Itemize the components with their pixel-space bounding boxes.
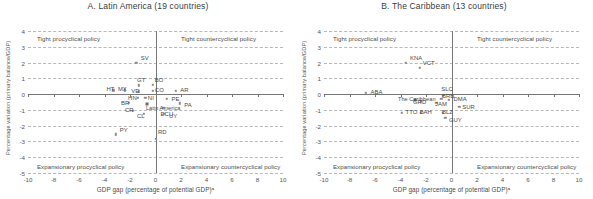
panel-a-data-point (152, 89, 154, 91)
panel-b-quadrant-label-tight-procyclical: Tight procyclical policy (333, 35, 396, 42)
panel-a-zero-axis-vertical (156, 31, 157, 173)
panel-b-y-tick-label: 2 (318, 59, 321, 66)
panel-a-gridline-y (28, 173, 283, 174)
panel-b-title: B. The Caribbean (13 countries) (296, 1, 592, 11)
panel-b-plot-area: 43210-1-2-3-4-5-10-8-6-4-20246810Tight p… (324, 31, 579, 173)
panel-a-x-tick-mark (105, 94, 106, 97)
panel-a-y-tick-label: -1 (19, 106, 25, 113)
panel-a-x-tick-mark (181, 94, 182, 97)
panel-b-x-tick-label: 8 (552, 176, 555, 183)
panel-b-x-tick-label: -2 (423, 176, 429, 183)
panel-b-y-tick-label: 0 (318, 91, 321, 98)
panel-latin-america: A. Latin America (19 countries) Percenta… (0, 0, 296, 199)
panel-b-data-point (404, 61, 406, 63)
panel-b-data-point-label: JAM (435, 101, 447, 107)
panel-a-x-tick-label: -10 (24, 176, 33, 183)
panel-a-data-point-label: GT (137, 77, 145, 83)
panel-a-x-tick-label: -6 (76, 176, 82, 183)
panel-a-x-tick-label: -2 (127, 176, 133, 183)
panel-a-y-tick-label: 4 (22, 28, 25, 35)
panel-b-data-point-label: DMA (453, 96, 466, 102)
panel-a-y-tick-label: -2 (19, 122, 25, 129)
panel-b-x-tick-label: 4 (501, 176, 504, 183)
panel-b-data-point-label: BLZ (442, 109, 453, 115)
panel-b-y-tick-label: 1 (318, 75, 321, 82)
panel-a-data-point (144, 97, 146, 99)
panel-b-x-tick-mark (579, 94, 580, 97)
panel-a-quadrant-label-expansionary-countercyclical: Expansionary countercyclical policy (181, 162, 280, 169)
panel-a-data-point (138, 84, 140, 86)
panel-a-data-point-label: CL (137, 113, 145, 119)
panel-b-data-point-label: VCT (423, 60, 435, 66)
panel-a-y-tick-label: 0 (22, 91, 25, 98)
panel-a-x-tick-label: 8 (256, 176, 259, 183)
panel-b-data-point (365, 91, 367, 93)
panel-a-x-tick-label: 10 (280, 176, 287, 183)
panel-a-data-point (166, 97, 168, 99)
panel-b-x-tick-mark (324, 94, 325, 97)
panel-a-y-axis-label: Percentage variation (primary balance/GD… (2, 28, 13, 168)
panel-b-data-point (458, 106, 460, 108)
panel-a-data-point-label: HT (106, 86, 114, 92)
panel-a-data-point (115, 133, 117, 135)
panel-a-y-tick-label: 2 (22, 59, 25, 66)
panel-b-x-tick-mark (554, 94, 555, 97)
panel-b-data-point-label: SLC (441, 86, 453, 92)
panel-a-data-point-label: PE (171, 96, 179, 102)
panel-b-quadrant-label-expansionary-countercyclical: Expansionary countercyclical policy (477, 162, 576, 169)
panel-b-quadrant-label-tight-countercyclical: Tight countercyclical policy (477, 35, 552, 42)
panel-b-x-tick-label: -6 (372, 176, 378, 183)
panel-a-x-tick-label: 4 (205, 176, 208, 183)
panel-a-data-point (135, 61, 137, 63)
panel-a-x-tick-mark (156, 94, 157, 97)
panel-b-y-tick-label: -1 (315, 106, 321, 113)
panel-a-x-tick-label: 0 (154, 176, 157, 183)
figure-scatter-fiscal-policy: A. Latin America (19 countries) Percenta… (0, 0, 593, 199)
panel-a-quadrant-label-expansionary-procyclical: Expansionary procyclical policy (37, 162, 124, 169)
panel-a-y-tick-label: 3 (22, 43, 25, 50)
panel-b-x-tick-label: 0 (450, 176, 453, 183)
panel-b-data-point-label: KNA (410, 55, 422, 61)
panel-b-x-tick-label: -4 (398, 176, 404, 183)
panel-b-x-tick-label: 10 (576, 176, 583, 183)
panel-b-y-axis-label: Percentage variation (primary balance/GD… (298, 28, 309, 168)
panel-a-plot-area: 43210-1-2-3-4-5-10-8-6-4-20246810Tight p… (28, 31, 283, 173)
panel-a-data-point (175, 89, 177, 91)
panel-a-data-point-label: SV (141, 55, 149, 61)
panel-b-average-label: The Caribbean (398, 96, 436, 102)
panel-b-data-point-label: ABA (371, 89, 383, 95)
panel-a-quadrant-label-tight-countercyclical: Tight countercyclical policy (181, 35, 256, 42)
panel-a-x-tick-mark (283, 94, 284, 97)
panel-b-data-point (448, 98, 450, 100)
panel-b-zero-axis-vertical (452, 31, 453, 173)
panel-a-data-point-label: BO (155, 77, 164, 83)
panel-a-data-point-label: AR (180, 87, 188, 93)
panel-a-x-tick-mark (54, 94, 55, 97)
panel-b-x-tick-mark (350, 94, 351, 97)
panel-a-data-point-label: VE (131, 88, 139, 94)
panel-a-data-point-label: PA (184, 102, 192, 108)
panel-b-data-point-label: TTO (406, 109, 418, 115)
panel-a-data-point-label: BR (121, 100, 129, 106)
panel-b-data-point-label: SUR (462, 104, 475, 110)
panel-b-data-point (401, 112, 403, 114)
panel-b-x-tick-label: -10 (320, 176, 329, 183)
panel-a-data-point-label: CR (125, 107, 134, 113)
panel-b-y-tick-label: -2 (315, 122, 321, 129)
panel-a-x-tick-mark (232, 94, 233, 97)
panel-b-quadrant-label-expansionary-procyclical: Expansionary procyclical policy (333, 162, 420, 169)
panel-a-x-tick-mark (79, 94, 80, 97)
panel-a-y-tick-label: -3 (19, 138, 25, 145)
panel-b-y-tick-label: 3 (318, 43, 321, 50)
panel-a-data-point-label: UY (169, 113, 177, 119)
panel-a-data-point (152, 83, 154, 85)
panel-a-x-tick-label: 2 (179, 176, 182, 183)
panel-a-x-tick-mark (28, 94, 29, 97)
panel-b-x-tick-label: 2 (475, 176, 478, 183)
panel-a-quadrant-label-tight-procyclical: Tight procyclical policy (37, 35, 100, 42)
panel-b-data-point-label: GUY (449, 117, 462, 123)
panel-b-x-tick-label: -8 (347, 176, 353, 183)
panel-a-x-tick-mark (207, 94, 208, 97)
panel-b-y-tick-label: -4 (315, 154, 321, 161)
panel-a-x-axis-label: GDP gap (percentage of potential GDP)ᵃ (28, 186, 283, 193)
